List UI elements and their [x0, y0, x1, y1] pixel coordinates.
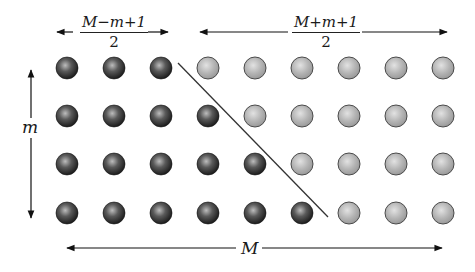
- dark-ball: [56, 153, 78, 175]
- light-ball: [244, 105, 266, 127]
- dark-ball: [197, 105, 219, 127]
- dark-ball: [56, 105, 78, 127]
- light-ball: [291, 153, 313, 175]
- dark-ball: [103, 105, 125, 127]
- top-left-denominator: 2: [109, 33, 119, 50]
- dark-ball: [150, 202, 172, 224]
- light-ball: [338, 57, 360, 79]
- dark-ball: [244, 153, 266, 175]
- top-right-fraction-label: M+m+1 2: [293, 15, 359, 50]
- light-ball: [291, 105, 313, 127]
- dark-ball: [103, 202, 125, 224]
- left-m-label: m: [22, 119, 38, 136]
- light-ball: [432, 57, 454, 79]
- light-ball: [338, 105, 360, 127]
- bottom-M-label: M: [241, 240, 258, 257]
- dark-ball: [103, 153, 125, 175]
- dark-ball: [244, 202, 266, 224]
- light-ball: [432, 105, 454, 127]
- dark-ball: [56, 57, 78, 79]
- light-ball: [197, 57, 219, 79]
- dark-ball: [197, 153, 219, 175]
- dark-ball: [197, 202, 219, 224]
- top-left-fraction-label: M−m+1 2: [84, 15, 144, 50]
- light-ball: [385, 202, 407, 224]
- dark-ball: [56, 202, 78, 224]
- light-ball: [385, 105, 407, 127]
- light-ball: [385, 153, 407, 175]
- light-ball: [291, 57, 313, 79]
- ball-grid-diagram: [0, 0, 475, 272]
- ball-grid: [56, 57, 454, 224]
- dark-ball: [150, 57, 172, 79]
- dark-ball: [150, 153, 172, 175]
- dimension-arrows: [31, 32, 447, 248]
- divider-line: [178, 63, 328, 217]
- light-ball: [385, 57, 407, 79]
- dark-ball: [291, 202, 313, 224]
- light-ball: [338, 202, 360, 224]
- dark-ball: [103, 57, 125, 79]
- diagram-canvas: M−m+1 2 M+m+1 2 m M: [0, 0, 475, 272]
- light-ball: [338, 153, 360, 175]
- light-ball: [244, 57, 266, 79]
- top-right-numerator: M+m+1: [292, 15, 360, 33]
- dark-ball: [150, 105, 172, 127]
- top-left-numerator: M−m+1: [80, 15, 148, 33]
- light-ball: [432, 153, 454, 175]
- top-right-denominator: 2: [321, 33, 331, 50]
- light-ball: [432, 202, 454, 224]
